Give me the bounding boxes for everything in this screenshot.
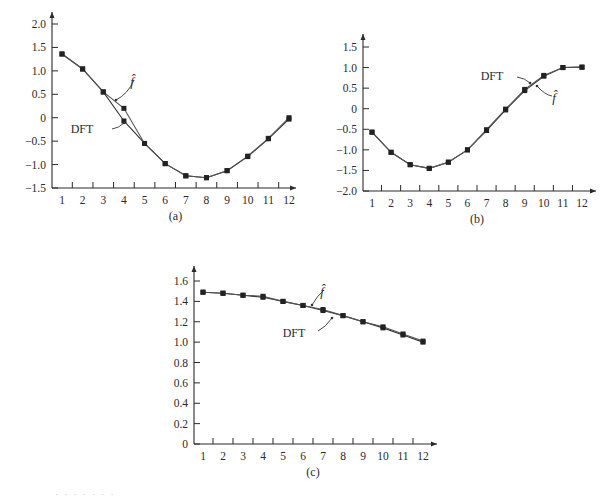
data-point-marker: [60, 51, 65, 56]
data-point-marker: [401, 331, 406, 336]
annotation-leader-fhat: [537, 86, 552, 96]
x-tick-label: 4: [426, 197, 432, 209]
data-point-marker: [465, 147, 470, 152]
y-tick-label: −0.5: [25, 135, 46, 147]
y-tick-label: 0: [351, 103, 357, 115]
arrowhead-icon: [536, 85, 539, 88]
x-tick-label: 11: [557, 197, 568, 209]
data-point-marker: [541, 73, 546, 78]
data-point-marker: [261, 294, 266, 299]
chart-caption: (c): [306, 465, 319, 479]
x-tick-label: 4: [260, 450, 266, 462]
x-tick-label: 11: [263, 194, 274, 206]
x-tick-label: 1: [59, 194, 65, 206]
y-axis-arrow-icon: [50, 12, 55, 18]
y-tick-label: 1.0: [32, 65, 47, 77]
data-point-marker: [121, 106, 126, 111]
data-point-marker: [101, 89, 106, 94]
data-point-marker: [421, 339, 426, 344]
annotation-fhat: f̂: [320, 284, 326, 299]
data-point-marker: [503, 107, 508, 112]
x-tick-label: 7: [320, 450, 326, 462]
y-tick-label: 0.4: [174, 397, 189, 409]
y-tick-label: 0.5: [32, 88, 47, 100]
data-point-marker: [80, 66, 85, 71]
annotation-leader-dft: [112, 123, 124, 129]
y-tick-label: −2.0: [336, 185, 357, 197]
annotation-leader-dft: [318, 318, 332, 331]
data-point-marker: [484, 127, 489, 132]
y-axis-arrow-icon: [361, 34, 366, 40]
y-tick-label: 0.8: [174, 357, 189, 369]
data-point-marker: [446, 160, 451, 165]
y-tick-label: 1.6: [174, 275, 189, 287]
annotation-fhat: f̂: [552, 90, 558, 105]
chart-panel-c: 00.20.40.60.81.01.21.41.6123456789101112…: [174, 266, 437, 479]
x-tick-label: 12: [417, 450, 429, 462]
x-tick-label: 10: [377, 450, 389, 462]
y-tick-label: 1.0: [343, 62, 358, 74]
chart-panel-b: −2.0−1.5−1.0−0.500.51.01.512345678910111…: [336, 34, 596, 226]
x-tick-label: 12: [576, 197, 588, 209]
x-tick-label: 5: [280, 450, 286, 462]
series-line-dft: [203, 292, 423, 342]
data-point-marker: [225, 168, 230, 173]
series-line-dft: [372, 67, 582, 168]
chart-caption: (a): [169, 209, 182, 223]
cropped-footnote-text: · · · · · · ·: [55, 489, 165, 497]
series-line-dft: [62, 54, 289, 178]
x-tick-label: 2: [220, 450, 226, 462]
y-tick-label: −1.0: [25, 159, 46, 171]
y-tick-label: 2.0: [32, 18, 47, 30]
data-point-marker: [370, 130, 375, 135]
y-tick-label: −1.5: [336, 164, 357, 176]
arrowhead-icon: [529, 82, 532, 85]
data-point-marker: [266, 136, 271, 141]
x-tick-label: 7: [484, 197, 490, 209]
data-point-marker: [361, 319, 366, 324]
data-point-marker: [204, 175, 209, 180]
x-tick-label: 10: [538, 197, 550, 209]
data-point-marker: [321, 307, 326, 312]
x-tick-label: 10: [242, 194, 254, 206]
y-tick-label: −1.0: [336, 144, 357, 156]
annotation-dft: DFT: [283, 326, 306, 340]
data-point-marker: [408, 162, 413, 167]
x-tick-label: 1: [369, 197, 375, 209]
data-point-marker: [522, 87, 527, 92]
x-tick-label: 6: [465, 197, 471, 209]
y-tick-label: −0.5: [336, 123, 357, 135]
arrowhead-icon: [115, 99, 118, 102]
x-tick-label: 2: [80, 194, 86, 206]
arrowhead-icon: [331, 317, 334, 320]
arrowhead-icon: [123, 122, 126, 125]
y-tick-label: 0.2: [174, 418, 189, 430]
data-point-marker: [245, 154, 250, 159]
annotation-dft: DFT: [481, 69, 504, 83]
y-tick-label: 0.6: [174, 377, 189, 389]
chart-caption: (b): [470, 212, 484, 226]
data-point-marker: [201, 290, 206, 295]
y-tick-label: 0: [182, 438, 188, 450]
y-tick-label: −1.5: [25, 182, 46, 194]
annotation-dft: DFT: [71, 122, 94, 136]
x-tick-label: 8: [503, 197, 509, 209]
x-axis-arrow-icon: [431, 442, 437, 447]
data-point-marker: [381, 324, 386, 329]
x-tick-label: 6: [162, 194, 168, 206]
data-point-marker: [281, 299, 286, 304]
data-point-marker: [427, 166, 432, 171]
x-tick-label: 3: [240, 450, 246, 462]
data-point-marker: [560, 65, 565, 70]
data-point-marker: [183, 173, 188, 178]
x-tick-label: 8: [204, 194, 210, 206]
series-line-fhat: [372, 67, 582, 168]
x-axis-arrow-icon: [290, 186, 296, 191]
data-point-marker: [301, 303, 306, 308]
x-tick-label: 9: [224, 194, 230, 206]
data-point-marker: [142, 141, 147, 146]
data-point-marker: [287, 115, 292, 120]
data-point-marker: [389, 150, 394, 155]
x-tick-label: 11: [397, 450, 408, 462]
x-tick-label: 6: [300, 450, 306, 462]
